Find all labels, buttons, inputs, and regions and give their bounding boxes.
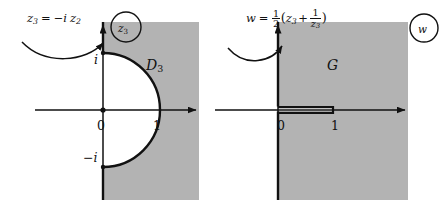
badge-label-w: w (418, 23, 427, 35)
region-d3-fill (103, 22, 199, 200)
transform-formula-right: w=12(z3+1z3) (246, 8, 327, 30)
formula-right-equals: = (259, 11, 269, 25)
formula-right-inv-num: 1 (310, 8, 321, 18)
left-plane-group (22, 12, 199, 200)
left-point-i (101, 51, 105, 55)
axis-label-i-left: i (94, 52, 98, 67)
formula-right-plus: + (298, 11, 308, 25)
formula-right-half: 12 (272, 9, 280, 30)
axis-label-zero-right: 0 (277, 118, 285, 133)
formula-left-rhs-sub: 2 (76, 17, 81, 26)
diagram-vector-layer (0, 0, 446, 214)
formula-right-close-paren: ) (322, 10, 327, 25)
transform-formula-left: z3=−iz2 (27, 13, 81, 26)
formula-left-minus-i: −i (54, 11, 67, 25)
region-label-g: G (327, 57, 338, 73)
left-point-minus-i (101, 165, 105, 169)
region-label-d3: D3 (146, 57, 163, 74)
left-origin-dot (100, 107, 105, 112)
formula-left-lhs-sub: 3 (33, 17, 38, 26)
region-label-d3-base: D (146, 57, 157, 73)
formula-right-lhs: w (246, 11, 256, 25)
formula-right-term1-sub: 3 (292, 17, 297, 26)
region-label-d3-sub: 3 (157, 63, 163, 74)
formula-right-half-num: 1 (272, 9, 280, 19)
axis-label-one-left: 1 (153, 118, 161, 133)
axis-label-minus-i-left: −i (83, 150, 97, 165)
formula-right-inv-den-sub: 3 (316, 22, 320, 30)
transform-arrow-left (22, 42, 103, 59)
formula-left-equals: = (41, 11, 51, 25)
badge-label-z3: z3 (118, 22, 128, 36)
formula-right-half-den: 2 (272, 18, 280, 29)
axis-label-zero-left: 0 (97, 118, 105, 133)
formula-right-inv-den: z3 (310, 18, 321, 30)
axis-label-one-right: 1 (331, 118, 339, 133)
right-plane-group (215, 14, 438, 200)
region-g-fill (278, 22, 408, 200)
formula-right-inverse: 1z3 (310, 8, 321, 30)
badge-label-z3-sub: 3 (124, 27, 129, 36)
diagram-canvas: z3=−iz2 w=12(z3+1z3) D3 G z3 w 0 1 i −i … (0, 0, 446, 214)
transform-arrow-right (228, 46, 282, 61)
